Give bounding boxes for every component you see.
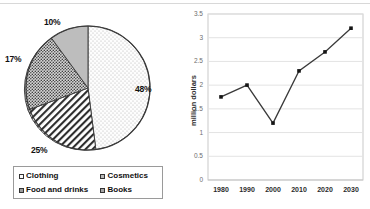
legend-swatch-food-and-drinks	[19, 188, 24, 193]
pie-chart-panel: 10% 17% 25% 48% Clothing Cosmetics Food …	[0, 0, 185, 209]
legend-label-food-and-drinks: Food and drinks	[26, 185, 88, 195]
x-tick-label: 1990	[234, 186, 260, 193]
legend-label-clothing: Clothing	[26, 171, 58, 181]
x-tick-label: 2030	[338, 186, 364, 193]
data-point-2030	[349, 26, 353, 30]
line-chart-panel: 3.5 3 2.5 2 1.5 1 0.5 0 1980 1990 2000 2…	[185, 0, 370, 209]
legend-swatch-clothing	[19, 174, 24, 179]
y-tick-label: 0	[187, 176, 203, 183]
line-chart-svg	[185, 0, 370, 209]
legend-item-books: Books	[100, 185, 158, 195]
legend-item-cosmetics: Cosmetics	[100, 171, 158, 181]
x-tick-label: 2000	[260, 186, 286, 193]
legend-swatch-books	[100, 188, 105, 193]
pie-legend: Clothing Cosmetics Food and drinks Books	[13, 166, 163, 199]
pie-label-clothing: 48%	[135, 84, 151, 94]
pie-label-food-and-drinks: 25%	[31, 145, 47, 155]
legend-label-books: Books	[107, 185, 131, 195]
y-tick-label: 0.5	[187, 152, 203, 159]
data-point-2020	[323, 50, 327, 54]
x-tick-label: 2020	[312, 186, 338, 193]
data-point-2010	[297, 69, 301, 73]
y-tick-label: 3	[187, 34, 203, 41]
y-axis-label: million dollars	[189, 66, 198, 136]
legend-swatch-cosmetics	[100, 174, 105, 179]
legend-item-food-and-drinks: Food and drinks	[19, 185, 100, 195]
legend-label-cosmetics: Cosmetics	[107, 171, 147, 181]
legend-row: Food and drinks Books	[19, 183, 158, 197]
y-tick-label: 3.5	[187, 10, 203, 17]
legend-item-clothing: Clothing	[19, 171, 100, 181]
pie-label-books: 10%	[44, 17, 60, 27]
y-tick-label: 2.5	[187, 57, 203, 64]
legend-row: Clothing Cosmetics	[19, 169, 158, 183]
figure-container: 10% 17% 25% 48% Clothing Cosmetics Food …	[0, 0, 370, 209]
data-point-2000	[271, 121, 275, 125]
pie-label-cosmetics: 17%	[5, 54, 21, 64]
data-point-1980	[219, 95, 223, 99]
data-point-1990	[245, 83, 249, 87]
x-tick-label: 2010	[286, 186, 312, 193]
x-tick-label: 1980	[208, 186, 234, 193]
pie-chart-svg	[0, 0, 185, 166]
